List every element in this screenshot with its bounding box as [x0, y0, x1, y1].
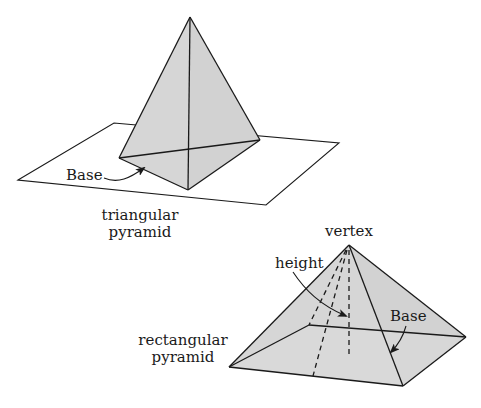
rectangular-pyramid-figure: vertex height Base rectangular pyramid — [138, 222, 466, 386]
triangular-pyramid-caption-line2: pyramid — [109, 223, 172, 241]
rectangular-base-label: Base — [390, 307, 427, 325]
rectangular-pyramid-caption-line2: pyramid — [152, 348, 215, 366]
vertex-label: vertex — [324, 222, 373, 240]
rectangular-pyramid-caption-line1: rectangular — [138, 331, 228, 349]
triangular-pyramid-caption-line1: triangular — [102, 206, 180, 224]
triangular-pyramid-figure: Base triangular pyramid — [18, 17, 339, 241]
pyramids-diagram: Base triangular pyramid vertex — [0, 0, 481, 408]
height-label: height — [275, 254, 324, 272]
triangular-base-label: Base — [66, 166, 103, 184]
